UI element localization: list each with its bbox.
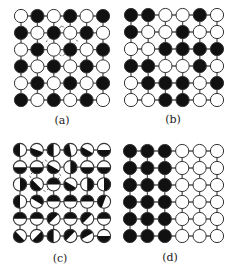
empty-site xyxy=(176,195,189,208)
empty-site xyxy=(193,178,206,191)
panel-d xyxy=(0,0,236,273)
filled-site xyxy=(158,161,171,174)
filled-site xyxy=(141,178,154,191)
panel-d-label: (d) xyxy=(162,251,178,264)
empty-site xyxy=(193,195,206,208)
filled-site xyxy=(141,195,154,208)
filled-site xyxy=(141,161,154,174)
filled-site xyxy=(123,229,136,242)
empty-site xyxy=(210,178,223,191)
filled-site xyxy=(158,178,171,191)
filled-site xyxy=(123,195,136,208)
filled-site xyxy=(158,144,171,157)
empty-site xyxy=(210,144,223,157)
empty-site xyxy=(210,195,223,208)
filled-site xyxy=(123,178,136,191)
filled-site xyxy=(123,212,136,225)
empty-site xyxy=(176,144,189,157)
filled-site xyxy=(123,161,136,174)
filled-site xyxy=(141,229,154,242)
empty-site xyxy=(210,212,223,225)
filled-site xyxy=(158,229,171,242)
empty-site xyxy=(193,161,206,174)
filled-site xyxy=(158,195,171,208)
empty-site xyxy=(210,229,223,242)
filled-site xyxy=(141,144,154,157)
filled-site xyxy=(158,212,171,225)
empty-site xyxy=(210,161,223,174)
empty-site xyxy=(176,212,189,225)
empty-site xyxy=(176,178,189,191)
empty-site xyxy=(193,229,206,242)
empty-site xyxy=(193,212,206,225)
empty-site xyxy=(176,229,189,242)
empty-site xyxy=(176,161,189,174)
lattice-d xyxy=(0,0,236,273)
filled-site xyxy=(141,212,154,225)
filled-site xyxy=(123,144,136,157)
empty-site xyxy=(193,144,206,157)
